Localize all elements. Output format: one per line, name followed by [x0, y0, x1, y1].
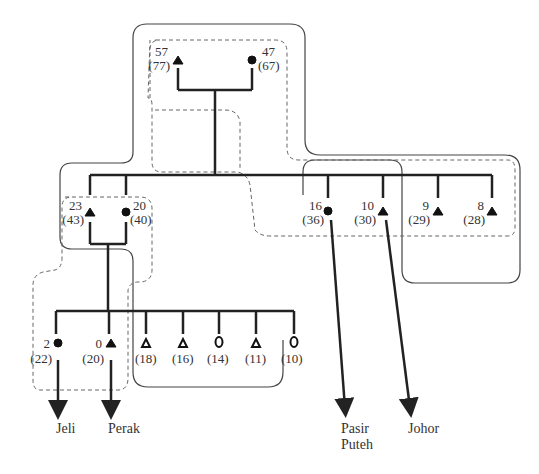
arrow-to-pasir-puteh — [331, 220, 345, 408]
gen2-age: 16 — [298, 199, 322, 213]
male-triangle-icon — [173, 56, 183, 64]
gen3-paren: (10) — [281, 352, 303, 366]
gen3-paren: (18) — [135, 352, 157, 366]
gen3-paren: (14) — [207, 352, 229, 366]
gen3-age: 2 — [26, 337, 50, 351]
gen2-paren: (30) — [342, 213, 376, 227]
open-triangle-icon — [142, 339, 150, 347]
open-triangle-icon — [179, 339, 187, 347]
gen2-paren: (43) — [52, 213, 84, 227]
gen3-paren: (16) — [172, 352, 194, 366]
male-triangle-icon — [433, 207, 443, 215]
gen2-paren: (29) — [396, 213, 430, 227]
female-circle-icon — [248, 56, 256, 64]
gen1-male-age: 57 — [146, 45, 168, 59]
open-triangle-icon — [252, 339, 260, 347]
male-triangle-icon — [85, 208, 95, 216]
gen2-paren: (36) — [290, 213, 324, 227]
open-circle-icon — [216, 337, 223, 347]
male-triangle-icon — [487, 207, 497, 215]
gen2-paren: (40) — [130, 213, 152, 227]
destination-jeli: Jeli — [56, 421, 75, 437]
male-triangle-icon — [378, 207, 388, 215]
destination-perak: Perak — [108, 421, 140, 437]
gen2-age: 9 — [405, 199, 429, 213]
kinship-diagram: 57 (77) 47 (67) 23 (43) 20 (40) 16 (36) … — [0, 0, 539, 474]
gen1-female-paren: (67) — [258, 59, 280, 73]
gen3-paren: (11) — [245, 352, 266, 366]
arrow-to-johor — [386, 220, 410, 408]
gen2-age: 10 — [350, 199, 374, 213]
gen1-male-paren: (77) — [140, 59, 170, 73]
open-circle-icon — [291, 337, 298, 347]
destination-pasir-puteh-line2: Puteh — [341, 437, 373, 453]
gen1-female-age: 47 — [262, 45, 275, 59]
gen2-age: 20 — [133, 199, 146, 213]
gen2-paren: (28) — [451, 213, 485, 227]
female-circle-icon — [324, 207, 332, 215]
female-circle-icon — [122, 208, 130, 216]
gen3-age: 0 — [78, 337, 102, 351]
gen3-paren: (22) — [18, 352, 52, 366]
gen2-age: 8 — [460, 199, 484, 213]
destination-johor: Johor — [408, 421, 439, 437]
gen3-paren: (20) — [70, 352, 104, 366]
female-circle-icon — [54, 339, 62, 347]
male-triangle-icon — [106, 339, 116, 347]
household-boundary-solid-left — [60, 24, 283, 387]
gen2-age: 23 — [58, 199, 82, 213]
destination-pasir-puteh-line1: Pasir — [341, 421, 369, 437]
